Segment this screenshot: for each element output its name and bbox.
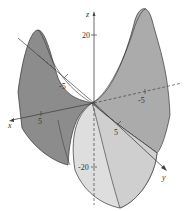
x-axis-label: x [7, 121, 12, 130]
y-tick-neg5 [64, 74, 68, 78]
y-tick-label-neg5: -5 [59, 82, 66, 91]
x-tick-label-5: 5 [38, 117, 42, 126]
z-tick-label-neg20: -20 [78, 163, 89, 172]
x-tick-label-neg5: -5 [138, 96, 145, 105]
y-axis-label: y [161, 173, 166, 182]
z-axis-arrow-icon [93, 11, 96, 16]
z-tick-label-20: 20 [82, 31, 90, 40]
y-tick-label-5: 5 [114, 128, 118, 137]
saddle-surface-figure: z 20 -20 x 5 -5 y 5 -5 [0, 0, 185, 211]
z-axis-label: z [85, 10, 90, 19]
